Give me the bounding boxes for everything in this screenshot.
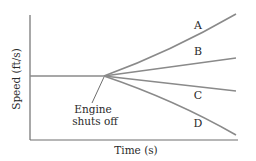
x-axis-title: Time (s) — [114, 144, 157, 156]
curve-b — [104, 58, 236, 76]
curve-c-label: C — [194, 89, 202, 102]
annotation-pointer — [92, 77, 104, 103]
speed-time-diagram: A B C D Engine shuts off Time (s) Speed … — [0, 0, 256, 161]
annotation-line-1: Engine — [74, 103, 111, 115]
curve-a-label: A — [193, 19, 203, 32]
annotation-line-2: shuts off — [72, 115, 119, 127]
curve-d-label: D — [194, 117, 203, 130]
y-axis-title: Speed (ft/s) — [10, 48, 22, 110]
curve-b-label: B — [194, 45, 202, 58]
curve-d — [104, 76, 236, 135]
